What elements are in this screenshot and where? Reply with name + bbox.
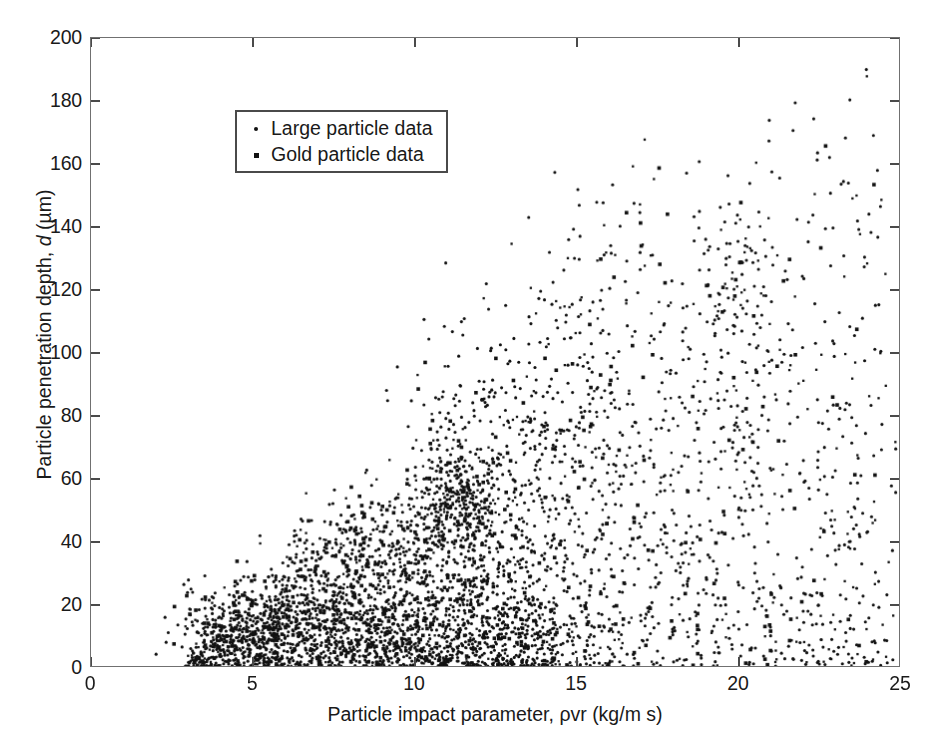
y-tick-mark <box>890 604 899 606</box>
x-tick-label: 20 <box>727 672 748 695</box>
y-axis-title-suffix: (µm) <box>33 190 55 236</box>
x-tick-label: 15 <box>565 672 586 695</box>
legend-box[interactable]: Large particle data Gold particle data <box>235 110 448 173</box>
y-tick-mark <box>890 163 899 165</box>
y-tick-mark <box>890 37 899 39</box>
x-tick-label: 10 <box>403 672 424 695</box>
y-tick-mark <box>91 541 100 543</box>
legend-item[interactable]: Gold particle data <box>249 142 446 168</box>
square-marker-icon <box>249 153 263 158</box>
x-tick-mark <box>738 38 740 47</box>
y-tick-mark <box>91 352 100 354</box>
x-tick-mark <box>252 657 254 666</box>
y-tick-mark <box>890 352 899 354</box>
y-tick-mark <box>91 100 100 102</box>
y-tick-mark <box>91 163 100 165</box>
y-tick-mark <box>890 100 899 102</box>
x-tick-mark <box>252 38 254 47</box>
x-axis-title-prefix: Particle impact parameter, <box>327 703 559 725</box>
y-tick-mark <box>91 604 100 606</box>
x-tick-mark <box>576 657 578 666</box>
y-tick-mark <box>890 289 899 291</box>
y-tick-mark <box>890 541 899 543</box>
x-axis-title-mid: vr (kg/m s) <box>570 703 662 725</box>
x-tick-label: 25 <box>889 672 910 695</box>
x-tick-mark <box>90 657 92 666</box>
x-tick-label: 0 <box>85 672 96 695</box>
y-tick-mark <box>91 37 100 39</box>
y-tick-mark <box>91 289 100 291</box>
y-tick-mark <box>91 478 100 480</box>
y-tick-label: 0 <box>0 656 82 679</box>
x-tick-mark <box>414 38 416 47</box>
y-axis-title-symbol: d <box>33 235 55 246</box>
y-tick-mark <box>890 226 899 228</box>
x-tick-mark <box>90 38 92 47</box>
dot-marker-icon <box>249 127 263 131</box>
y-axis-title-prefix: Particle penetration depth, <box>33 246 55 479</box>
x-tick-label: 5 <box>247 672 258 695</box>
x-tick-mark <box>414 657 416 666</box>
legend-item-label: Gold particle data <box>271 145 424 165</box>
y-axis-title: Particle penetration depth, d (µm) <box>33 15 56 655</box>
y-tick-mark <box>91 415 100 417</box>
x-axis-title: Particle impact parameter, ρvr (kg/m s) <box>90 703 900 726</box>
legend-item[interactable]: Large particle data <box>249 116 446 142</box>
x-axis-title-rho: ρ <box>559 703 570 725</box>
scatter-points <box>91 38 899 666</box>
legend-item-label: Large particle data <box>271 119 433 139</box>
y-tick-mark <box>91 226 100 228</box>
figure-canvas: 020406080100120140160180200 Particle pen… <box>0 0 929 743</box>
x-tick-mark <box>738 657 740 666</box>
y-tick-mark <box>890 478 899 480</box>
x-tick-mark <box>576 38 578 47</box>
plot-area[interactable]: Large particle data Gold particle data <box>90 37 900 667</box>
y-tick-mark <box>890 415 899 417</box>
